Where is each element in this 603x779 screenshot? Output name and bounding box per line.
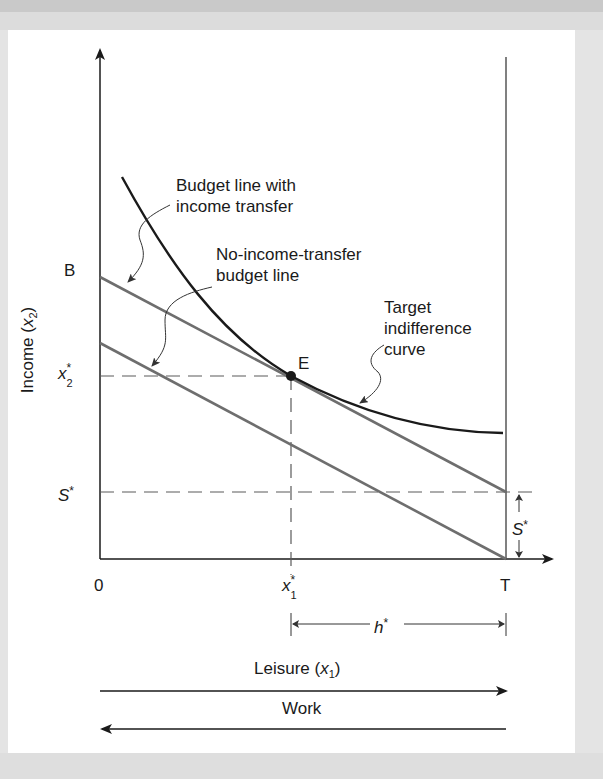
pointer-indifference-curve [360,345,384,403]
equilibrium-point [286,371,296,381]
s-star-axis-label: S* [58,481,74,506]
t-label: T [500,576,510,596]
s-star-gap-label: S* [512,515,528,540]
pointer-budget-with-transfer [128,205,170,282]
budget-line-no-transfer [100,343,506,559]
y-axis-label: Income (x2) [18,307,39,393]
x2-star-label: x*2 [58,364,73,389]
h-star-label: h* [374,613,388,638]
x1-star-label: x*1 [282,576,297,601]
work-label: Work [282,699,321,719]
budget-with-transfer-annotation: Budget line with income transfer [176,175,296,217]
b-label: B [64,261,75,281]
x-axis-label: Leisure (x1) [254,659,340,684]
origin-label: 0 [94,576,103,596]
no-transfer-annotation: No-income-transfer budget line [216,244,362,286]
e-label: E [298,354,309,374]
target-curve-annotation: Target indifference curve [384,297,472,360]
